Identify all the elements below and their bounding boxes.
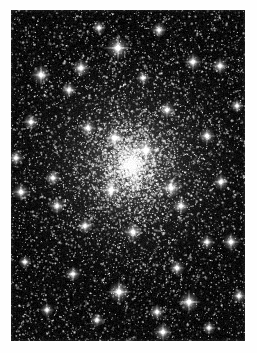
screenshot-page: [0, 0, 257, 353]
globular-cluster-photograph: [11, 10, 245, 341]
star-field-canvas: [11, 10, 245, 341]
